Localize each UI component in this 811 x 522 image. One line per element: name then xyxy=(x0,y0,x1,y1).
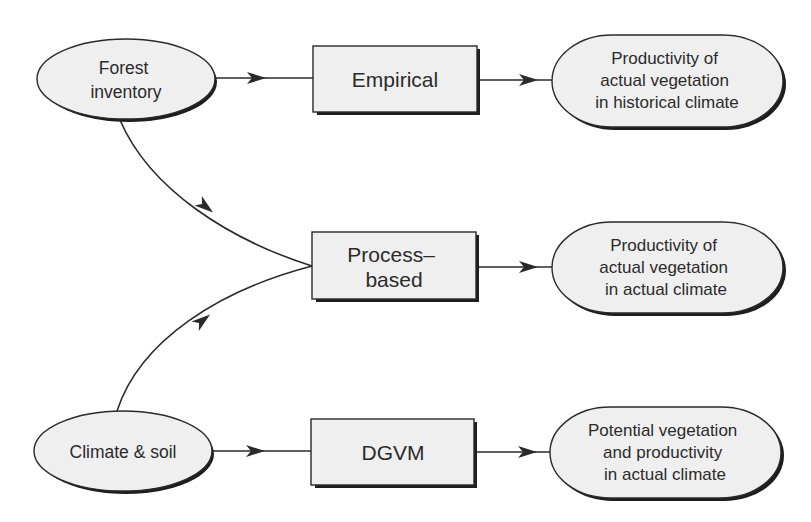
node-label: Empirical xyxy=(352,68,438,91)
node-label: Potential vegetation and productivity in… xyxy=(588,421,742,484)
node-dgvm: DGVM xyxy=(311,419,477,488)
edge-climate-to-process xyxy=(117,266,312,411)
node-forest-inventory: Forest inventory xyxy=(37,39,217,122)
node-output-actual: Productivity of actual vegetation in act… xyxy=(552,222,786,316)
arrowhead-icon xyxy=(191,310,213,331)
node-climate-soil: Climate & soil xyxy=(34,411,214,494)
flow-diagram: Forest inventory Climate & soil Empirica… xyxy=(0,0,811,522)
arrowhead-icon xyxy=(194,196,216,217)
node-label: Climate & soil xyxy=(70,442,177,462)
node-process-based: Process– based xyxy=(312,232,479,302)
node-empirical: Empirical xyxy=(313,46,480,115)
node-label: Productivity of actual vegetation in act… xyxy=(599,236,732,299)
node-label: DGVM xyxy=(362,441,425,464)
edge-forest-to-process xyxy=(120,120,312,266)
node-label: Productivity of actual vegetation in his… xyxy=(595,49,739,112)
node-output-potential: Potential vegetation and productivity in… xyxy=(550,407,784,501)
node-output-historical: Productivity of actual vegetation in his… xyxy=(552,35,786,130)
